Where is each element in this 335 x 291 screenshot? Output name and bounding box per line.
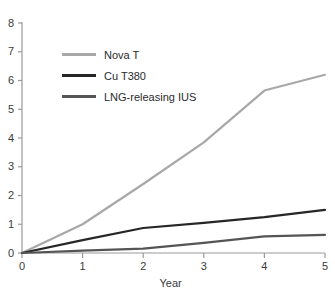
y-axis-tick-label: 0 (0, 248, 14, 259)
x-axis-tick-label: 4 (257, 261, 271, 272)
legend-item[interactable]: Nova T (62, 44, 196, 65)
x-axis-tick-label: 3 (197, 261, 211, 272)
chart-legend: Nova TCu T380LNG-releasing IUS (62, 44, 196, 107)
y-axis-tick-label: 5 (0, 104, 14, 115)
legend-item-label: Nova T (104, 49, 139, 61)
x-axis-title: Year (160, 277, 182, 289)
x-axis-tick-label: 1 (76, 261, 90, 272)
y-axis-tick-label: 7 (0, 46, 14, 57)
y-axis-tick-label: 4 (0, 133, 14, 144)
legend-item[interactable]: Cu T380 (62, 65, 196, 86)
y-axis-tick-label: 1 (0, 219, 14, 230)
x-axis-tick-label: 2 (136, 261, 150, 272)
legend-line-swatch-icon (62, 95, 96, 98)
line-chart: 012345678 012345 Year Nova TCu T380LNG-r… (0, 0, 335, 291)
y-axis-tick-label: 2 (0, 190, 14, 201)
y-axis-tick-label: 3 (0, 161, 14, 172)
legend-item-label: LNG-releasing IUS (104, 91, 196, 103)
legend-item[interactable]: LNG-releasing IUS (62, 86, 196, 107)
x-axis-tick-label: 5 (318, 261, 332, 272)
legend-line-swatch-icon (62, 74, 96, 77)
legend-item-label: Cu T380 (104, 70, 146, 82)
y-axis-tick-label: 8 (0, 18, 14, 29)
legend-line-swatch-icon (62, 53, 96, 56)
x-axis-tick-label: 0 (15, 261, 29, 272)
y-axis-tick-label: 6 (0, 75, 14, 86)
